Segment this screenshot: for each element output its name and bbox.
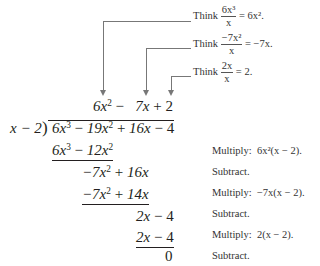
annotation-4: Subtract. bbox=[212, 208, 250, 219]
fraction: 2x x bbox=[221, 61, 234, 84]
arrow-down-icon bbox=[168, 90, 174, 96]
divisor: x − 2 bbox=[10, 120, 42, 137]
arrow-down-icon bbox=[143, 90, 149, 96]
annotation-5: Multiply: 2(x − 2). bbox=[212, 229, 293, 240]
quotient: 6x2 − 7x + 2 bbox=[93, 98, 173, 115]
think-note-3: Think 2x x = 2. bbox=[193, 61, 252, 84]
dividend: 6x3 − 19x2 + 16x − 4 bbox=[52, 120, 174, 137]
fraction: 6x³ x bbox=[221, 5, 237, 28]
step-row-4: 2x − 4 bbox=[136, 208, 174, 225]
annotation-1: Multiply: 6x²(x − 2). bbox=[212, 145, 302, 156]
think-note-1: Think 6x³ x = 6x². bbox=[193, 5, 264, 28]
division-bracket: ) bbox=[42, 118, 48, 138]
think-note-2: Think −7x² x = −7x. bbox=[193, 33, 273, 56]
step-row-3: −7x2 + 14x bbox=[82, 186, 149, 205]
annotation-6: Subtract. bbox=[212, 250, 250, 261]
annotation-2: Subtract. bbox=[212, 166, 250, 177]
arrow-down-icon bbox=[100, 90, 106, 96]
fraction: −7x² x bbox=[221, 33, 243, 56]
step-row-5: 2x − 4 bbox=[136, 229, 174, 248]
annotation-3: Multiply: −7x(x − 2). bbox=[212, 187, 305, 198]
step-row-2: −7x2 + 16x bbox=[82, 164, 149, 181]
step-row-6: 0 bbox=[165, 248, 173, 265]
step-row-1: 6x3 − 12x2 bbox=[52, 142, 113, 161]
